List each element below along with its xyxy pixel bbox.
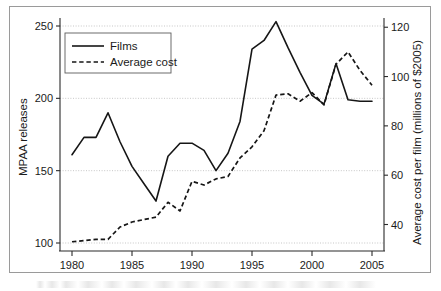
y-axis-tick-label: 150 [35,165,53,177]
x-axis-tick-label: 1980 [60,259,84,271]
caption-text-fragment [36,281,396,288]
y2-axis-tick-label: 60 [391,169,403,181]
x-axis-tick-label: 1990 [180,259,204,271]
y2-axis-tick-label: 40 [391,219,403,231]
y-axis-tick-label: 200 [35,92,53,104]
right-axis-title: Average cost per film (millions of $2005… [411,40,423,245]
chart-svg: 1001502002504060801001201980198519901995… [0,0,441,291]
y-axis-tick-label: 100 [35,237,53,249]
y2-axis-tick-label: 120 [391,21,409,33]
y-axis-tick-label: 250 [35,20,53,32]
chart-legend: Films Average cost [65,33,178,73]
y2-axis-tick-label: 80 [391,120,403,132]
x-axis-tick-label: 1995 [240,259,264,271]
legend-label-films: Films [110,40,138,52]
legend-label-average-cost: Average cost [110,56,178,68]
x-axis-tick-label: 1985 [120,259,144,271]
series-line-average-cost [72,52,372,242]
left-axis-title: MPAA releases [17,98,29,176]
figure-container: 1001502002504060801001201980198519901995… [0,0,441,291]
y2-axis-tick-label: 100 [391,71,409,83]
x-axis-tick-label: 2005 [360,259,384,271]
x-axis-tick-label: 2000 [300,259,324,271]
